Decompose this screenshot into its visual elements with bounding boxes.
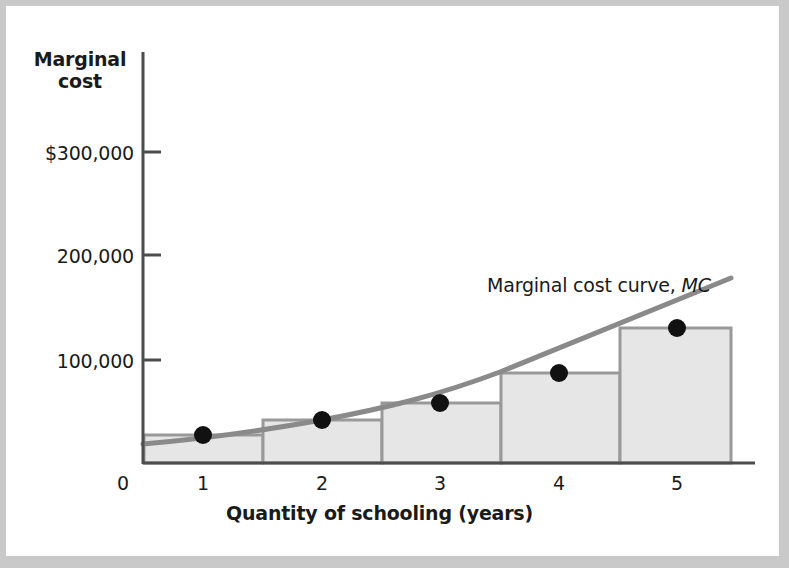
data-point-year-5 [668, 319, 686, 337]
curve-annotation-text: Marginal cost curve, [487, 274, 681, 296]
curve-annotation-symbol: MC [681, 274, 710, 296]
data-point-year-3 [431, 394, 449, 412]
x-tick-label-1: 1 [183, 472, 223, 494]
y-tick-label-200000: 200,000 [14, 245, 134, 267]
y-tick-label-100000: 100,000 [14, 350, 134, 372]
y-axis-title: Marginal cost [20, 48, 140, 93]
bar-year-5 [620, 328, 731, 463]
x-tick-label-2: 2 [302, 472, 342, 494]
bar-year-4 [501, 373, 620, 463]
data-point-year-4 [550, 364, 568, 382]
data-point-year-1 [194, 426, 212, 444]
x-tick-label-5: 5 [657, 472, 697, 494]
bar-year-3 [382, 403, 501, 463]
x-tick-label-3: 3 [420, 472, 460, 494]
x-tick-label-4: 4 [539, 472, 579, 494]
x-axis-title: Quantity of schooling (years) [226, 502, 533, 524]
curve-annotation-label: Marginal cost curve, MC [487, 274, 711, 296]
chart-canvas: Marginal cost $300,000 200,000 100,000 0… [6, 6, 779, 556]
figure-frame: Marginal cost $300,000 200,000 100,000 0… [0, 0, 789, 568]
y-tick-label-300000: $300,000 [14, 142, 134, 164]
data-point-year-2 [313, 411, 331, 429]
x-tick-label-0: 0 [103, 472, 143, 494]
